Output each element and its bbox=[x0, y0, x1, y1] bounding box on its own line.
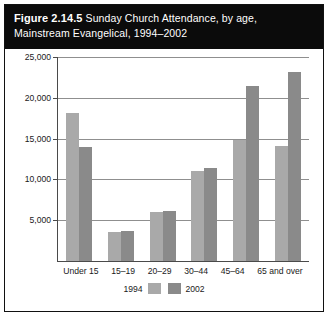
legend-label-2002: 2002 bbox=[186, 284, 205, 294]
figure-title-text-1: Sunday Church Attendance, by age, bbox=[83, 12, 257, 24]
chart-axes: 5,00010,00015,00020,00025,000 bbox=[57, 57, 309, 262]
y-axis-label: 10,000 bbox=[25, 174, 51, 184]
legend-swatch-1994 bbox=[148, 283, 161, 294]
bar-2002 bbox=[121, 231, 134, 261]
bar-1994 bbox=[233, 140, 246, 261]
x-axis-label: 45–64 bbox=[221, 266, 245, 276]
figure-title-line-2: Mainstream Evangelical, 1994–2002 bbox=[14, 26, 314, 41]
figure-frame: Figure 2.14.5 Sunday Church Attendance, … bbox=[4, 4, 324, 312]
y-axis-label: 15,000 bbox=[25, 134, 51, 144]
legend-item-2002: 2002 bbox=[168, 283, 205, 294]
bar-group bbox=[66, 57, 92, 261]
bar-group bbox=[150, 57, 176, 261]
bar-group bbox=[275, 57, 301, 261]
chart-plot-area: 5,00010,00015,00020,00025,000 Under 1515… bbox=[5, 49, 323, 311]
bar-2002 bbox=[288, 72, 301, 261]
bar-2002 bbox=[204, 168, 217, 261]
bar-1994 bbox=[150, 212, 163, 261]
bar-1994 bbox=[191, 171, 204, 261]
bar-1994 bbox=[108, 232, 121, 261]
x-axis-label: 30–44 bbox=[184, 266, 208, 276]
bar-group bbox=[191, 57, 217, 261]
figure-title-band: Figure 2.14.5 Sunday Church Attendance, … bbox=[5, 5, 323, 49]
bar-group bbox=[108, 57, 134, 261]
x-axis-labels: Under 1515–1920–2930–4445–6465 and over bbox=[57, 266, 309, 276]
y-axis-label: 20,000 bbox=[25, 93, 51, 103]
y-axis-label: 25,000 bbox=[25, 52, 51, 62]
legend-item-1994: 1994 bbox=[123, 283, 160, 294]
y-axis-label: 5,000 bbox=[29, 215, 51, 225]
bar-2002 bbox=[163, 211, 176, 261]
legend-label-1994: 1994 bbox=[123, 284, 142, 294]
figure-container: Figure 2.14.5 Sunday Church Attendance, … bbox=[0, 0, 328, 316]
bars-layer bbox=[58, 57, 309, 261]
x-axis-label: 20–29 bbox=[148, 266, 172, 276]
x-axis-label: Under 15 bbox=[63, 266, 98, 276]
bar-group bbox=[233, 57, 259, 261]
bar-2002 bbox=[246, 86, 259, 261]
bar-2002 bbox=[79, 147, 92, 261]
chart-legend: 19942002 bbox=[13, 283, 315, 294]
x-axis-label: 15–19 bbox=[111, 266, 135, 276]
figure-number: Figure 2.14.5 bbox=[14, 12, 83, 24]
bar-1994 bbox=[66, 113, 79, 262]
x-axis-label: 65 and over bbox=[257, 266, 302, 276]
figure-title-line-1: Figure 2.14.5 Sunday Church Attendance, … bbox=[14, 11, 314, 26]
legend-swatch-2002 bbox=[168, 283, 181, 294]
bar-1994 bbox=[275, 146, 288, 261]
